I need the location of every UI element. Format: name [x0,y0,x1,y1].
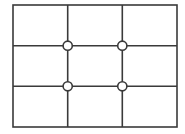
intersection-circle-2 [118,41,127,50]
outer-frame [13,5,177,127]
intersection-circle-1 [63,41,72,50]
rule-of-thirds-diagram [0,0,185,134]
vertical-grid-lines [68,5,123,127]
intersection-circle-3 [63,82,72,91]
horizontal-grid-lines [13,46,177,87]
intersection-points [63,41,127,91]
intersection-circle-4 [118,82,127,91]
